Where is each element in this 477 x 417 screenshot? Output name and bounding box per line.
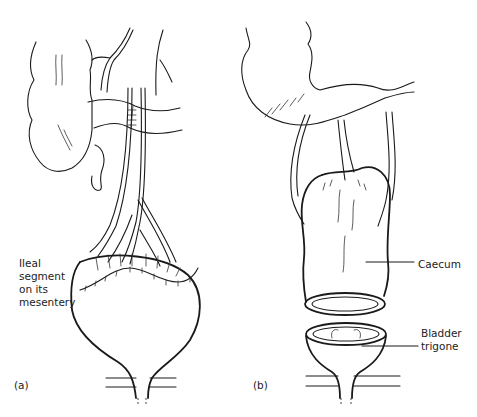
panel-label-a: (a) bbox=[14, 379, 29, 392]
label-caecum: Caecum bbox=[418, 258, 461, 271]
label-ileal-segment: Ileal segment on its mesentery bbox=[19, 257, 99, 309]
colon-a bbox=[28, 40, 92, 171]
label-line: trigone bbox=[421, 340, 477, 353]
label-line: Ileal bbox=[19, 257, 99, 270]
panel-label-b: (b) bbox=[253, 379, 268, 392]
label-bladder-trigone: Bladder trigone bbox=[421, 327, 477, 353]
label-line: on its bbox=[19, 283, 99, 296]
caecum bbox=[302, 175, 322, 302]
surgical-illustration bbox=[0, 0, 477, 417]
panel-b-drawing bbox=[242, 22, 414, 406]
label-line: Bladder bbox=[421, 327, 477, 340]
label-line: segment bbox=[19, 270, 99, 283]
label-line: mesentery bbox=[19, 296, 99, 309]
colon-b bbox=[242, 28, 414, 125]
panel-a-drawing bbox=[28, 28, 200, 406]
